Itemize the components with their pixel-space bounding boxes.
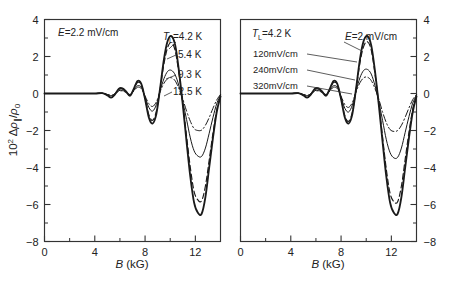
curve-left-5-4-k xyxy=(45,43,221,202)
ytick-label-4: 4 xyxy=(32,14,38,26)
leader-5-4k xyxy=(167,55,176,59)
panel-left: 04812420−2−4−6−8 E=2.2 mV/cm TL=4.2 K 5.… xyxy=(6,14,221,271)
panel-left-ticks xyxy=(45,20,196,242)
xtick-label-8: 8 xyxy=(338,246,344,258)
ytick-label--6: −6 xyxy=(26,199,39,211)
xtick-label-12: 12 xyxy=(189,246,201,258)
legend-label-5-4k: 5.4 K xyxy=(178,49,202,60)
leader-240 xyxy=(307,70,355,80)
panel-right-curves xyxy=(241,36,417,215)
xtick-label-4: 4 xyxy=(288,246,294,258)
panel-left-condition-label: E=2.2 mV/cm xyxy=(58,27,118,38)
ytick-label--4: −4 xyxy=(424,162,437,174)
panel-right: 04812420−2−4−6−8 TL=4.2 K E=2 mV/cm 120m… xyxy=(237,14,436,271)
xtick-label-12: 12 xyxy=(385,246,397,258)
curve-left-4-2-k xyxy=(45,36,221,215)
leader-e2 xyxy=(344,42,362,51)
ytick-label--8: −8 xyxy=(424,236,437,248)
figure-container: 04812420−2−4−6−8 E=2.2 mV/cm TL=4.2 K 5.… xyxy=(0,0,454,289)
ytick-label-2: 2 xyxy=(32,51,38,63)
ytick-label-0: 0 xyxy=(424,88,430,100)
legend-label-320: 320mV/cm xyxy=(253,80,298,91)
legend-label-9-3k: 9.3 K xyxy=(178,69,202,80)
ytick-label--6: −6 xyxy=(424,199,437,211)
xtick-label-0: 0 xyxy=(237,246,243,258)
panel-right-xaxis-title: B (kG) xyxy=(311,258,344,270)
panel-left-yaxis-title: 102 Δρ∥/ρ0 xyxy=(6,103,22,156)
legend-label-e2: E=2 mV/cm xyxy=(345,31,397,42)
xtick-label-4: 4 xyxy=(92,246,98,258)
ytick-label-0: 0 xyxy=(32,88,38,100)
curve-left-9-3-k xyxy=(45,70,221,157)
figure-svg: 04812420−2−4−6−8 E=2.2 mV/cm TL=4.2 K 5.… xyxy=(0,0,454,289)
leader-9-3k xyxy=(166,75,176,79)
curve-right-2-mv-cm xyxy=(241,36,417,215)
ytick-label--4: −4 xyxy=(26,162,39,174)
panel-left-xaxis-title: B (kG) xyxy=(115,258,148,270)
legend-label-240: 240mV/cm xyxy=(253,64,298,75)
leader-12-5k xyxy=(164,92,172,96)
xtick-label-8: 8 xyxy=(142,246,148,258)
ytick-label--2: −2 xyxy=(424,125,437,137)
ytick-label--8: −8 xyxy=(26,236,39,248)
legend-label-12-5k: 12.5 K xyxy=(173,86,202,97)
ytick-label--2: −2 xyxy=(26,125,39,137)
panel-right-condition-label: TL=4.2 K xyxy=(252,28,292,41)
legend-label-4-2k: TL=4.2 K xyxy=(163,31,203,44)
ytick-label-4: 4 xyxy=(424,14,430,26)
xtick-label-0: 0 xyxy=(41,246,47,258)
panel-left-curves xyxy=(45,36,221,215)
leader-120 xyxy=(307,54,357,62)
legend-label-120: 120mV/cm xyxy=(253,48,298,59)
ytick-label-2: 2 xyxy=(424,51,430,63)
